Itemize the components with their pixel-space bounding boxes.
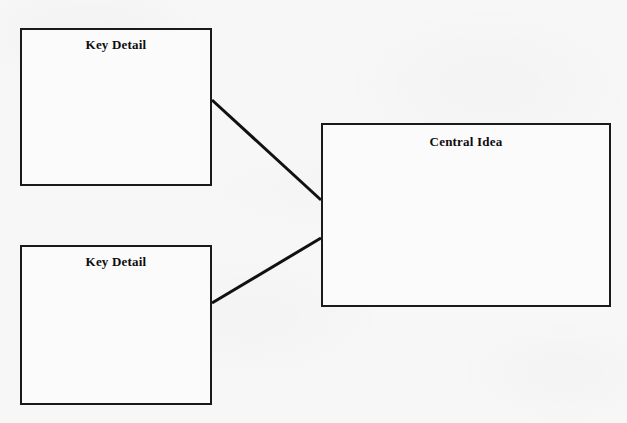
connector-key-detail-1-to-central-idea (212, 100, 321, 200)
node-central-idea-label: Central Idea (323, 134, 609, 150)
connector-key-detail-2-to-central-idea (212, 238, 321, 303)
node-key-detail-1[interactable]: Key Detail (20, 28, 212, 186)
node-key-detail-1-label: Key Detail (22, 37, 210, 53)
node-central-idea[interactable]: Central Idea (321, 123, 611, 307)
graphic-organizer-canvas: Key Detail Key Detail Central Idea (0, 0, 627, 423)
node-key-detail-2-label: Key Detail (22, 254, 210, 270)
node-key-detail-2[interactable]: Key Detail (20, 245, 212, 405)
